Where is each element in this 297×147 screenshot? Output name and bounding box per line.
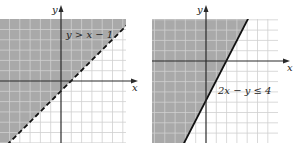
graph-left: y x y > x − 1 (0, 0, 148, 147)
inequality-label-left: y > x − 1 (65, 29, 113, 40)
y-axis-label-left: y (51, 4, 58, 15)
graph-left-plot: y x y > x − 1 (0, 0, 148, 147)
graph-right: y x 2x − y ≤ 4 (149, 0, 297, 147)
x-axis-label-left: x (132, 82, 138, 93)
y-axis-arrow-icon (204, 5, 209, 12)
y-axis-label-right: y (196, 4, 203, 15)
x-axis-label-right: x (287, 62, 293, 73)
graph-right-plot: y x 2x − y ≤ 4 (149, 0, 297, 147)
grid-right (152, 15, 278, 147)
inequality-label-right: 2x − y ≤ 4 (217, 85, 272, 96)
y-axis-arrow-icon (59, 5, 64, 12)
